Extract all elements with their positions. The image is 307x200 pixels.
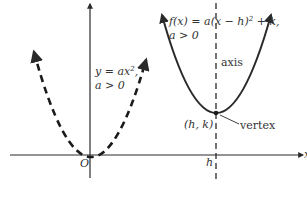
vertex-coordinates-label: (h, k): [184, 118, 213, 131]
shifted-condition: a > 0: [169, 29, 199, 42]
axis-label: axis: [221, 56, 243, 69]
standard-equation: y = ax2,: [94, 65, 138, 78]
vertex-label: vertex: [239, 119, 276, 132]
shifted-equation: f(x) = a(x − h)2 + k,: [168, 15, 280, 28]
vertex-point: [214, 111, 219, 116]
x-axis-label: x: [304, 148, 307, 161]
h-tick-label: h: [206, 156, 213, 169]
standard-condition: a > 0: [95, 79, 125, 92]
origin-label: O: [80, 157, 89, 170]
parabola-diagram: y = ax2, a > 0 f(x) = a(x − h)2 + k, a >…: [0, 0, 307, 200]
vertex-pointer: [220, 115, 239, 124]
